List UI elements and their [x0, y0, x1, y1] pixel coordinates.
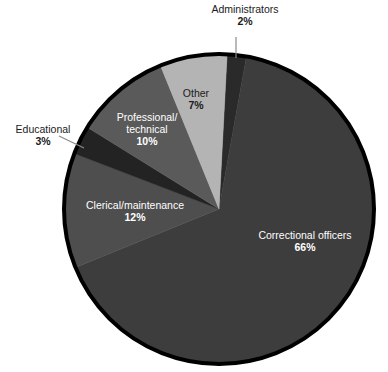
pie-chart: Administrators 2% Educational 3% Other 7…	[0, 0, 388, 372]
pie-chart-canvas	[0, 0, 388, 372]
